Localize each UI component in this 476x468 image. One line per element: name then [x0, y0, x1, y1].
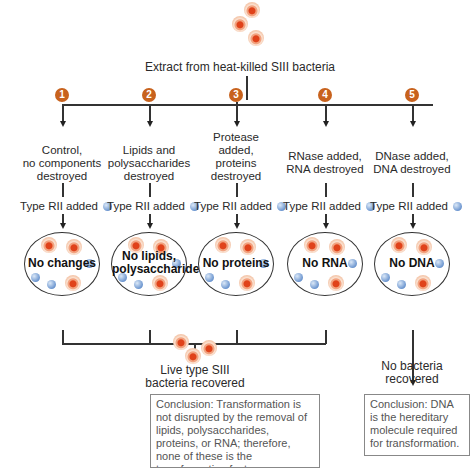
type-rii-added-label: Type RII added — [20, 200, 110, 213]
connector — [149, 183, 151, 197]
siii-cell-icon — [215, 237, 231, 253]
rii-cell-icon — [31, 273, 40, 282]
arrow-down-icon — [234, 121, 240, 127]
connector — [412, 104, 414, 122]
rii-cell-icon — [47, 280, 56, 289]
siii-cell-icon — [304, 237, 320, 253]
arrow-down-icon — [410, 121, 416, 127]
connector — [149, 330, 151, 344]
siii-cell-icon — [248, 30, 264, 46]
siii-cell-icon — [244, 2, 260, 18]
culture-dish: No changes — [24, 232, 100, 296]
dish-result-label: No proteins — [199, 257, 273, 270]
connector — [246, 76, 248, 100]
connector — [62, 330, 64, 344]
siii-cell-icon — [391, 237, 407, 253]
connector — [325, 330, 327, 344]
step-treatment-label: Lipids and polysaccharides destroyed — [99, 144, 199, 183]
connector — [62, 104, 433, 106]
rii-added-text: Type RII added — [194, 200, 272, 212]
arrow-down-icon — [60, 223, 66, 229]
rii-cell-icon — [381, 273, 390, 282]
arrow-down-icon — [234, 223, 240, 229]
siii-cell-icon — [201, 340, 217, 356]
rii-cell-icon — [221, 280, 230, 289]
rii-added-text: Type RII added — [20, 200, 98, 212]
type-rii-added-label: Type RII added — [370, 200, 460, 213]
connector — [62, 104, 64, 122]
arrow-down-icon — [60, 121, 66, 127]
step-number-badge: 2 — [142, 88, 156, 102]
dish-result-label: No RNA — [288, 257, 362, 270]
dish-result-label: No lipids, polysaccharides — [112, 250, 186, 276]
arrow-down-icon — [147, 223, 153, 229]
culture-dish: No proteins — [198, 232, 274, 296]
connector — [62, 183, 64, 197]
rii-cell-icon — [397, 280, 406, 289]
siii-cell-icon — [239, 275, 255, 291]
connector — [325, 104, 327, 122]
step-treatment-label: Control, no components destroyed — [12, 144, 112, 183]
siii-cell-icon — [240, 239, 256, 255]
conclusion-box-left: Conclusion: Transformation is not disrup… — [150, 394, 320, 468]
connector — [236, 183, 238, 197]
connector — [325, 183, 327, 197]
siii-cell-icon — [416, 239, 432, 255]
connector — [236, 330, 238, 344]
connector — [236, 102, 238, 122]
dish-result-label: No DNA — [375, 257, 449, 270]
dish-result-label: No changes — [25, 257, 99, 270]
type-rii-added-label: Type RII added — [194, 200, 284, 213]
siii-cell-icon — [185, 348, 201, 364]
step-treatment-label: DNase added, DNA destroyed — [362, 150, 462, 176]
step-treatment-label: RNase added, RNA destroyed — [275, 150, 375, 176]
rii-cell-icon — [453, 202, 462, 211]
siii-cell-icon — [152, 275, 168, 291]
siii-cell-icon — [329, 239, 345, 255]
siii-cell-icon — [415, 275, 431, 291]
type-rii-added-label: Type RII added — [107, 200, 197, 213]
rii-cell-icon — [205, 273, 214, 282]
arrow-down-icon — [147, 121, 153, 127]
diagram-title: Extract from heat-killed SIII bacteria — [120, 61, 360, 74]
top-cell-cluster — [230, 2, 270, 52]
type-rii-added-label: Type RII added — [283, 200, 373, 213]
outcome-live-siii: Live type SIII bacteria recovered — [140, 364, 250, 390]
rii-cell-icon — [310, 280, 319, 289]
rii-added-text: Type RII added — [107, 200, 185, 212]
conclusion-box-right: Conclusion: DNA is the hereditary molecu… — [364, 394, 470, 456]
step-number-badge: 3 — [229, 88, 243, 102]
arrow-down-icon — [323, 121, 329, 127]
siii-cell-icon — [328, 275, 344, 291]
step-treatment-label: Protease added, proteins destroyed — [186, 131, 286, 183]
siii-cell-icon — [232, 16, 248, 32]
rii-added-text: Type RII added — [283, 200, 361, 212]
siii-cell-icon — [41, 237, 57, 253]
arrow-down-icon — [323, 223, 329, 229]
siii-cell-icon — [65, 275, 81, 291]
connector — [412, 183, 414, 197]
step-number-badge: 1 — [55, 88, 69, 102]
siii-cell-icon — [66, 239, 82, 255]
outcome-no-bacteria: No bacteria recovered — [362, 360, 462, 386]
culture-dish: No RNA — [287, 232, 363, 296]
culture-dish: No DNA — [374, 232, 450, 296]
connector — [149, 104, 151, 122]
step-number-badge: 4 — [318, 88, 332, 102]
arrow-down-icon — [410, 223, 416, 229]
rii-cell-icon — [134, 280, 143, 289]
rii-cell-icon — [294, 273, 303, 282]
step-number-badge: 5 — [405, 88, 419, 102]
culture-dish: No lipids, polysaccharides — [111, 232, 187, 296]
siii-cell-icon — [173, 334, 189, 350]
rii-added-text: Type RII added — [370, 200, 448, 212]
